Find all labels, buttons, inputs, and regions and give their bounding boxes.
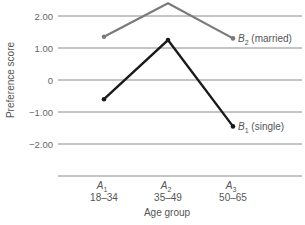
data-point [102,35,107,40]
y-tick-labels: 2.001.000−1.00−2.00 [29,11,53,150]
x-tick-range: 35–49 [154,192,182,203]
data-point [102,97,107,102]
series-lines: B2 (married)B1 (single) [102,3,292,134]
line-chart: Preference score 2.001.000−1.00−2.00 B2 … [0,0,305,225]
data-point [166,38,171,43]
y-tick-label: 1.00 [35,43,54,54]
x-tick-range: 50–65 [219,192,247,203]
y-tick-label: 0 [48,75,53,86]
y-axis-title: Preference score [5,41,16,118]
data-point [231,36,236,41]
y-tick-label: −1.00 [29,107,53,118]
y-tick-label: −2.00 [29,139,53,150]
series-label: B2 (married) [238,33,292,46]
x-tick-range: 18–34 [90,192,118,203]
data-point [231,124,236,129]
series-label: B1 (single) [238,121,284,134]
series-line [104,40,233,126]
x-axis-title: Age group [144,207,191,218]
y-tick-label: 2.00 [35,11,54,22]
x-tick-labels: A118–34A235–49A350–65 [90,180,247,203]
series-line [104,3,233,38]
